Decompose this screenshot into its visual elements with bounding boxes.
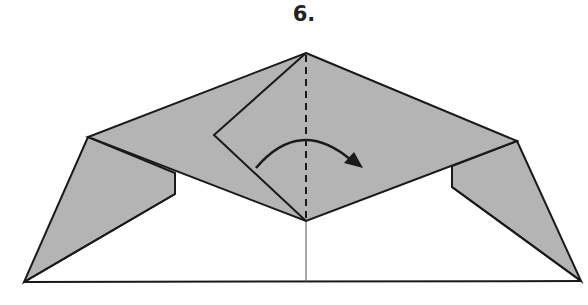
baseline: [24, 281, 581, 282]
origami-diagram: [0, 0, 588, 305]
right-wing-flap: [452, 141, 581, 281]
